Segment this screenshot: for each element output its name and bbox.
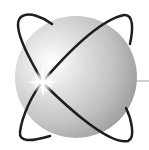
atom-sphere-icon xyxy=(0,0,149,150)
atom-sphere-logo xyxy=(0,0,149,150)
